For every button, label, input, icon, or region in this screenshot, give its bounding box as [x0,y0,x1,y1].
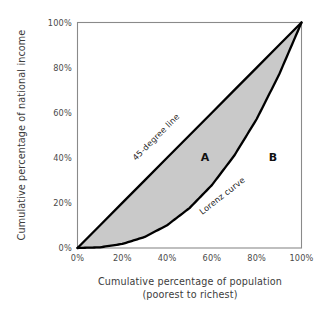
x-tick-label: 60% [202,253,221,263]
y-tick-label: 40% [53,153,72,163]
chart-svg: 100% 80% 60% 40% 20% 0% 0% 20% 40% 60% 8… [0,0,330,314]
y-tick-label: 80% [53,63,72,73]
y-tick-label: 100% [48,18,72,28]
x-tick-label: 100% [289,253,313,263]
region-label-b: B [269,151,277,164]
x-tick-label: 80% [247,253,266,263]
y-axis-tick-labels: 100% 80% 60% 40% 20% 0% [48,18,72,254]
region-label-a: A [201,151,210,164]
x-axis-title: Cumulative percentage of population [98,276,282,287]
x-axis-tick-labels: 0% 20% 40% 60% 80% 100% [71,253,314,263]
y-axis-title: Cumulative percentage of national income [16,30,27,241]
x-tick-label: 40% [158,253,177,263]
y-tick-label: 20% [53,198,72,208]
y-tick-label: 60% [53,108,72,118]
lorenz-curve-figure: 100% 80% 60% 40% 20% 0% 0% 20% 40% 60% 8… [0,0,330,314]
x-tick-label: 20% [113,253,132,263]
y-tick-label: 0% [59,243,72,253]
x-axis-subtitle: (poorest to richest) [142,289,237,300]
x-tick-label: 0% [71,253,84,263]
